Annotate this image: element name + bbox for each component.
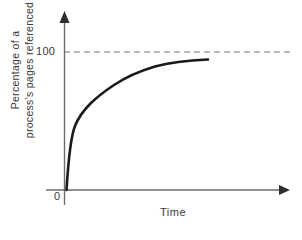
data-curve-pages-referenced: [67, 60, 209, 191]
y-axis-title-line-2: process's pages referenced: [22, 0, 36, 140]
y-axis-tick-100: 100: [36, 45, 55, 57]
y-axis-arrow-icon: [60, 11, 70, 23]
y-axis-title: Percentage of a process's pages referenc…: [8, 0, 36, 140]
y-axis-origin-label: 0: [54, 190, 60, 202]
x-axis-title-text: Time: [160, 206, 186, 218]
y-axis-title-line-1: Percentage of a: [8, 0, 22, 140]
x-axis-arrow-icon: [279, 185, 290, 195]
chart-plot-area: [0, 0, 302, 240]
x-axis-title: Time: [0, 206, 302, 218]
chart-figure: 100 0 Time Percentage of a process's pag…: [0, 0, 302, 240]
